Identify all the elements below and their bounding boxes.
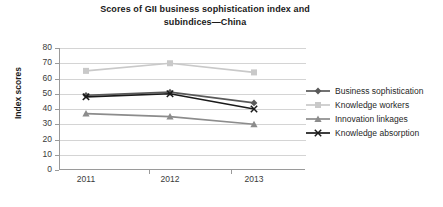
- y-axis-tick-label: 70: [26, 57, 52, 67]
- x-axis-tick: [149, 170, 150, 174]
- legend-item-label: Knowledge workers: [331, 100, 409, 110]
- legend-item[interactable]: Knowledge workers: [305, 98, 423, 112]
- gridline: [60, 63, 306, 64]
- legend-item-label: Innovation linkages: [331, 114, 408, 124]
- chart-container: Scores of GII business sophistication in…: [0, 0, 443, 207]
- chart-legend: Business sophisticationKnowledge workers…: [305, 84, 423, 140]
- y-axis-tick-label: 50: [26, 88, 52, 98]
- legend-item-label: Knowledge absorption: [331, 128, 419, 138]
- square-marker-icon: [305, 98, 331, 112]
- triangle-marker-icon: [305, 112, 331, 126]
- gridline: [60, 94, 306, 95]
- legend-item[interactable]: Business sophistication: [305, 84, 423, 98]
- y-axis-tick-label: 80: [26, 42, 52, 52]
- gridline: [60, 155, 306, 156]
- diamond-marker-icon: [305, 84, 331, 98]
- chart-title-line-2: subindices—China: [164, 17, 247, 27]
- plot-area: [59, 48, 305, 170]
- gridline: [60, 124, 306, 125]
- x-axis-tick: [231, 170, 232, 174]
- x-axis-tick-label: 2012: [148, 174, 192, 184]
- legend-item[interactable]: Knowledge absorption: [305, 126, 423, 140]
- chart-title: Scores of GII business sophistication in…: [55, 3, 355, 29]
- legend-item-label: Business sophistication: [331, 86, 423, 96]
- y-axis-tick-label: 20: [26, 134, 52, 144]
- y-axis-tick-label: 30: [26, 118, 52, 128]
- gridline: [60, 79, 306, 80]
- y-axis-tick-label: 0: [26, 164, 52, 174]
- chart-title-line-1: Scores of GII business sophistication in…: [100, 4, 310, 14]
- x-marker-icon: [305, 126, 331, 140]
- x-axis-tick-label: 2011: [64, 174, 108, 184]
- y-axis-tick: [55, 170, 59, 171]
- gridline: [60, 140, 306, 141]
- legend-item[interactable]: Innovation linkages: [305, 112, 423, 126]
- y-axis-title: Index scores: [13, 53, 23, 133]
- gridline: [60, 48, 306, 49]
- gridline: [60, 109, 306, 110]
- y-axis-tick-label: 60: [26, 73, 52, 83]
- x-axis-tick-label: 2013: [232, 174, 276, 184]
- y-axis-tick-label: 40: [26, 103, 52, 113]
- y-axis-tick-label: 10: [26, 149, 52, 159]
